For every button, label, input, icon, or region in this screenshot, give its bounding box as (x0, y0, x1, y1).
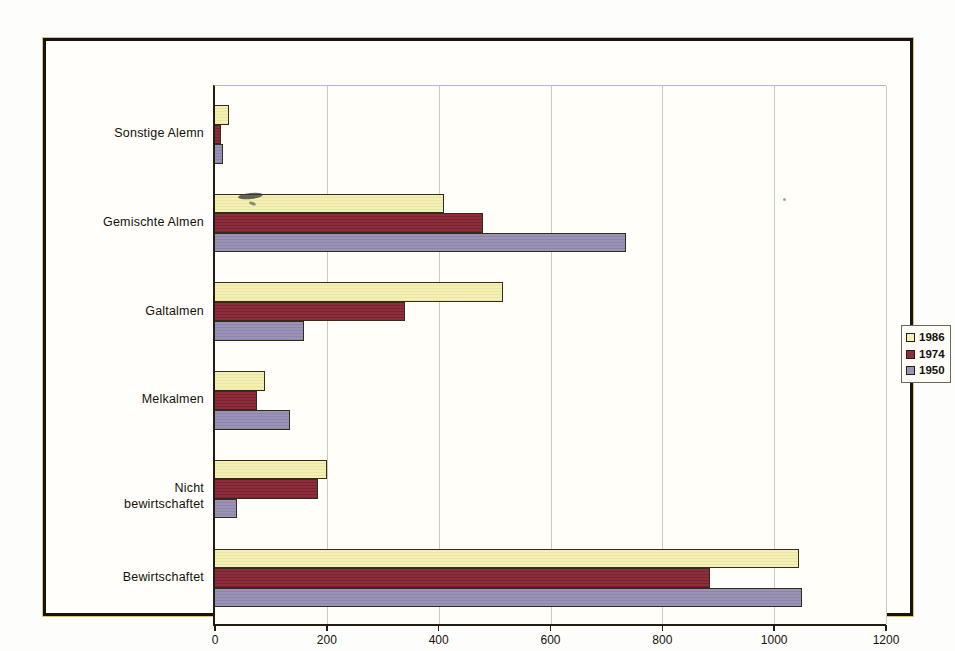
x-tick-mark (550, 625, 552, 631)
x-tick-label-800: 800 (630, 633, 694, 647)
gridline (774, 86, 775, 624)
gridline (662, 86, 663, 624)
bar-gemischte-almen-1950 (215, 233, 626, 253)
x-tick-mark (326, 625, 328, 631)
gridline (886, 86, 887, 624)
bar-melkalmen-1986 (215, 371, 265, 391)
bar-galtalmen-1974 (215, 302, 405, 322)
bar-sonstige-alemn-1950 (215, 144, 223, 164)
x-tick-label-1200: 1200 (854, 633, 918, 647)
legend-label-1974: 1974 (919, 348, 945, 361)
category-label-nicht-bewirtschaftet: Nicht bewirtschaftet (92, 480, 204, 496)
legend: 198619741950 (901, 325, 951, 383)
legend-swatch-1986 (906, 333, 915, 342)
legend-item-1950: 1950 (906, 364, 946, 377)
x-tick-label-400: 400 (407, 633, 471, 647)
x-tick-mark (885, 625, 887, 631)
category-label-gemischte-almen: Gemischte Almen (92, 214, 204, 230)
x-tick-mark (773, 625, 775, 631)
category-label-sonstige-alemn: Sonstige Alemn (92, 125, 204, 141)
category-label-melkalmen: Melkalmen (92, 391, 204, 407)
legend-item-1974: 1974 (906, 348, 946, 361)
bar-sonstige-alemn-1974 (215, 125, 221, 145)
bar-sonstige-alemn-1986 (215, 105, 229, 125)
gridline (327, 86, 328, 624)
x-tick-label-600: 600 (519, 633, 583, 647)
legend-swatch-1974 (906, 350, 915, 359)
x-tick-label-0: 0 (183, 633, 247, 647)
bar-nicht-bewirtschaftet-1974 (215, 479, 318, 499)
chart-frame: Sonstige AlemnGemischte AlmenGaltalmenMe… (43, 38, 913, 616)
gridline (439, 86, 440, 624)
gridline (551, 86, 552, 624)
x-tick-label-200: 200 (295, 633, 359, 647)
bar-bewirtschaftet-1974 (215, 568, 710, 588)
bar-nicht-bewirtschaftet-1950 (215, 499, 237, 519)
bar-bewirtschaftet-1950 (215, 588, 802, 608)
category-label-bewirtschaftet: Bewirtschaftet (92, 569, 204, 585)
bar-galtalmen-1986 (215, 282, 503, 302)
x-tick-mark (662, 625, 664, 631)
bar-melkalmen-1950 (215, 410, 290, 430)
print-speck (783, 198, 786, 201)
x-tick-label-1000: 1000 (742, 633, 806, 647)
scanned-chart-page: Sonstige AlemnGemischte AlmenGaltalmenMe… (0, 0, 955, 651)
legend-label-1986: 1986 (919, 331, 945, 344)
bar-gemischte-almen-1974 (215, 213, 483, 233)
plot-area (213, 85, 886, 626)
legend-label-1950: 1950 (919, 364, 945, 377)
bar-bewirtschaftet-1986 (215, 549, 799, 569)
bar-nicht-bewirtschaftet-1986 (215, 460, 327, 480)
x-tick-mark (214, 625, 216, 631)
bar-galtalmen-1950 (215, 321, 304, 341)
legend-swatch-1950 (906, 366, 915, 375)
legend-item-1986: 1986 (906, 331, 946, 344)
bar-melkalmen-1974 (215, 391, 257, 411)
category-label-galtalmen: Galtalmen (92, 303, 204, 319)
x-tick-mark (438, 625, 440, 631)
